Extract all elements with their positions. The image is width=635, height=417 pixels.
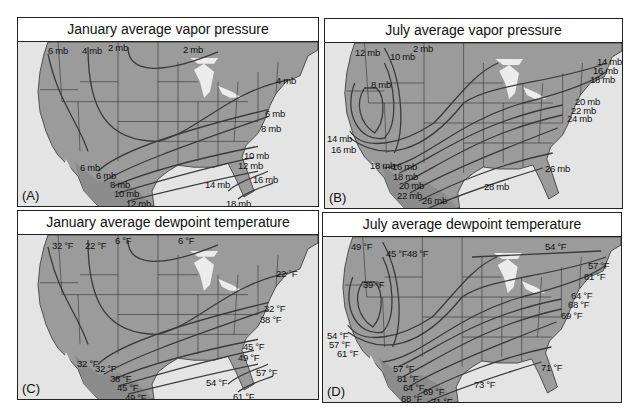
isoline-label: 22 mb bbox=[397, 191, 422, 201]
isoline-label: 49 °F bbox=[351, 242, 372, 252]
isoline-label: 6 mb bbox=[48, 46, 68, 56]
panel-letter: (A) bbox=[22, 188, 39, 203]
isoline-label: 69 °F bbox=[561, 311, 582, 321]
isoline-label: 32 °F bbox=[52, 241, 73, 251]
isoline-label: 4 mb bbox=[276, 76, 296, 86]
isoline-label: 12 mb bbox=[126, 199, 151, 207]
isoline-label: 71 °F bbox=[431, 397, 452, 403]
isoline-label: 28 mb bbox=[484, 182, 509, 192]
isoline-label: 12 mb bbox=[355, 48, 380, 58]
isoline-label: 68 °F bbox=[401, 394, 422, 403]
panel-letter: (B) bbox=[329, 190, 346, 205]
isoline-label: 48 °F bbox=[407, 249, 428, 259]
isoline-label: 26 mb bbox=[545, 164, 570, 174]
isoline-label: 2 mb bbox=[183, 45, 203, 55]
isoline-label: 10 mb bbox=[390, 52, 415, 62]
isoline-label: 22 °F bbox=[85, 241, 106, 251]
isoline-label: 57 °F bbox=[588, 261, 609, 271]
panel-title: January average dewpoint temperature bbox=[18, 211, 318, 235]
isoline-label: 45 °F bbox=[243, 342, 264, 352]
isoline-label: 57 °F bbox=[256, 368, 277, 378]
isoline-label: 2 mb bbox=[413, 44, 433, 54]
us-map: 12 mb 10 mb 2 mb 8 mb 14 mb 16 mb 18 mb … bbox=[325, 43, 622, 208]
isoline-label: 12 mb bbox=[238, 161, 263, 171]
isoline-label: 22 °F bbox=[276, 269, 297, 279]
isoline-label: 54 °F bbox=[545, 242, 566, 252]
isoline-label: 32 °F bbox=[264, 304, 285, 314]
us-map-graphic bbox=[325, 43, 622, 208]
panel-letter: (D) bbox=[327, 384, 345, 399]
isoline-label: 2 mb bbox=[108, 43, 128, 53]
isoline-label: 8 mb bbox=[371, 80, 391, 90]
isoline-label: 49 °F bbox=[238, 353, 259, 363]
isoline-label: 39 °F bbox=[363, 280, 384, 290]
isoline-label: 26 mb bbox=[422, 196, 447, 206]
isoline-label: 6 °F bbox=[178, 236, 194, 246]
isoline-label: 49 °F bbox=[125, 393, 146, 400]
isoline-label: 18 mb bbox=[226, 199, 251, 207]
panel-letter: (C) bbox=[22, 381, 40, 396]
panel-a-january-vapor-pressure: January average vapor pressure bbox=[17, 17, 319, 207]
panel-b-july-vapor-pressure: July average vapor pressure bbox=[324, 18, 623, 209]
isoline-label: 16 mb bbox=[331, 145, 356, 155]
isoline-label: 61 °F bbox=[337, 349, 358, 359]
panel-d-july-dewpoint: July average dewpoint temperature bbox=[322, 212, 622, 403]
isoline-label: 14 mb bbox=[205, 180, 230, 190]
isoline-label: 16 mb bbox=[253, 175, 278, 185]
isoline-label: 24 mb bbox=[567, 114, 592, 124]
isoline-label: 45 °F bbox=[386, 249, 407, 259]
isoline-label: 38 °F bbox=[260, 315, 281, 325]
isoline-label: 6 mb bbox=[265, 109, 285, 119]
panel-c-january-dewpoint: January average dewpoint temperature bbox=[17, 210, 319, 400]
panel-title: July average vapor pressure bbox=[325, 19, 622, 43]
isoline-label: 8 mb bbox=[261, 124, 281, 134]
panel-title: January average vapor pressure bbox=[18, 18, 318, 42]
isoline-label: 71 °F bbox=[541, 363, 562, 373]
panel-title: July average dewpoint temperature bbox=[323, 213, 621, 237]
us-map: 32 °F 22 °F 6 °F 6 °F 22 °F 32 °F 38 °F … bbox=[18, 235, 318, 399]
isoline-label: 18 mb bbox=[590, 75, 615, 85]
isoline-label: 14 mb bbox=[327, 134, 352, 144]
isoline-label: 61 °F bbox=[233, 392, 254, 400]
isoline-label: 73 °F bbox=[474, 380, 495, 390]
isoline-label: 68 °F bbox=[568, 300, 589, 310]
isoline-label: 54 °F bbox=[206, 378, 227, 388]
us-map: 6 mb 4 mb 2 mb 2 mb 4 mb 6 mb 8 mb 10 mb… bbox=[18, 42, 318, 206]
isoline-label: 81 °F bbox=[584, 272, 605, 282]
us-map: 49 °F 45 °F 48 °F 39 °F 54 °F 57 °F 81 °… bbox=[323, 237, 621, 402]
isoline-label: 6 °F bbox=[115, 236, 131, 246]
isoline-label: 64 °F bbox=[403, 383, 424, 393]
isoline-label: 4 mb bbox=[82, 46, 102, 56]
